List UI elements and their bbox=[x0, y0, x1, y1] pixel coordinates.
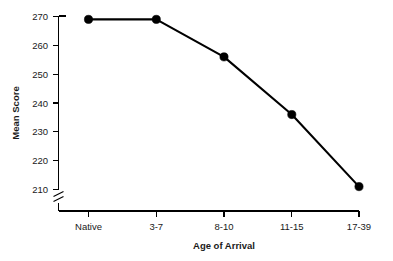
y-tick-marks bbox=[53, 17, 59, 190]
data-point bbox=[84, 15, 92, 23]
y-tick-label: 220 bbox=[32, 155, 48, 166]
x-tick-label: 11-15 bbox=[280, 221, 304, 232]
y-tick-label: 230 bbox=[32, 126, 48, 137]
y-tick-label: 210 bbox=[32, 184, 48, 195]
y-tick-label: 260 bbox=[32, 40, 48, 51]
x-tick-label: 3-7 bbox=[149, 221, 163, 232]
x-tick-marks bbox=[89, 211, 360, 217]
data-markers bbox=[84, 15, 363, 190]
line-chart: 270 260 250 240 230 220 210 Native 3-7 8… bbox=[0, 0, 393, 261]
x-tick-label: 8-10 bbox=[214, 221, 233, 232]
y-tick-label: 270 bbox=[32, 11, 48, 22]
y-tick-label: 250 bbox=[32, 69, 48, 80]
x-tick-label: 17-39 bbox=[347, 221, 371, 232]
y-axis-line bbox=[59, 16, 67, 189]
data-line bbox=[89, 19, 360, 186]
data-point bbox=[355, 183, 363, 191]
y-tick-label: 240 bbox=[32, 98, 48, 109]
data-point bbox=[152, 15, 160, 23]
y-axis-title: Mean Score bbox=[10, 86, 21, 139]
x-axis-title: Age of Arrival bbox=[193, 240, 255, 251]
data-point bbox=[288, 110, 296, 118]
x-tick-label: Native bbox=[75, 221, 102, 232]
data-point bbox=[220, 53, 228, 61]
chart-figure: 270 260 250 240 230 220 210 Native 3-7 8… bbox=[0, 0, 393, 261]
y-axis-break-icon bbox=[54, 192, 64, 212]
